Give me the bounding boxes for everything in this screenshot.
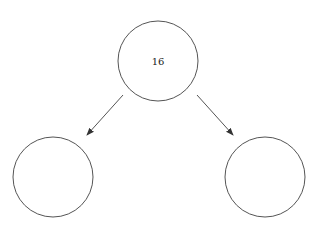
edge-root-to-left [87,95,123,135]
node-root-label: 16 [152,56,165,67]
node-root: 16 [118,21,198,101]
node-left-child [13,137,93,217]
tree-diagram: 16 [0,0,318,226]
node-right-child [225,137,305,217]
edge-root-to-right [197,95,233,135]
